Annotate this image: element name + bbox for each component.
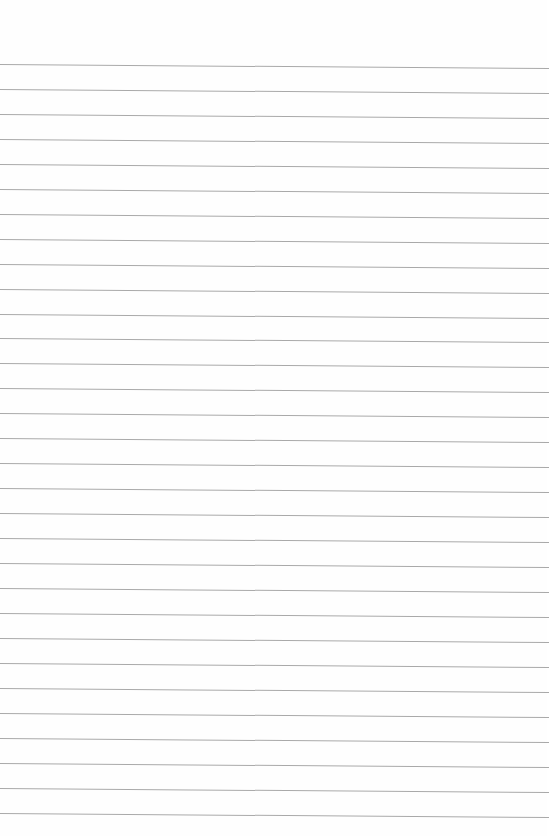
ruled-line <box>0 413 549 418</box>
ruled-line <box>0 114 549 119</box>
ruled-line <box>0 638 549 643</box>
ruled-line <box>0 388 549 393</box>
ruled-line <box>0 763 549 768</box>
ruled-line <box>0 688 549 693</box>
ruled-line <box>0 363 549 368</box>
ruled-line <box>0 513 549 518</box>
ruled-line <box>0 189 549 194</box>
ruled-line <box>0 738 549 743</box>
ruled-line <box>0 164 549 169</box>
ruled-line <box>0 239 549 244</box>
ruled-line <box>0 788 549 793</box>
ruled-line <box>0 713 549 718</box>
ruled-line <box>0 488 549 493</box>
ruled-line <box>0 214 549 219</box>
ruled-line <box>0 438 549 443</box>
ruled-line <box>0 613 549 618</box>
ruled-line <box>0 338 549 343</box>
ruled-line <box>0 813 549 818</box>
ruled-line <box>0 314 549 319</box>
ruled-line <box>0 663 549 668</box>
ruled-line <box>0 538 549 543</box>
ruled-line <box>0 264 549 269</box>
ruled-line <box>0 139 549 144</box>
ruled-line <box>0 588 549 593</box>
ruled-line <box>0 89 549 94</box>
ruled-line <box>0 64 549 69</box>
ruled-line <box>0 563 549 568</box>
ruled-line <box>0 463 549 468</box>
ruled-line <box>0 289 549 294</box>
